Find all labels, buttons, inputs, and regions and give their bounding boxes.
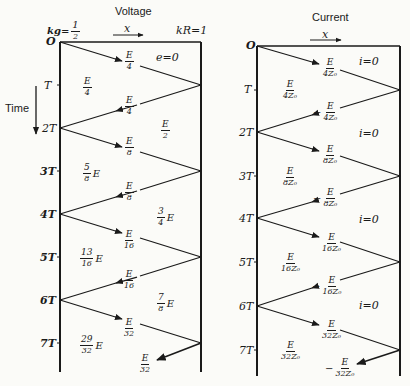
voltage-region-left-4: 2932E: [80, 335, 103, 355]
current-tick-0: O: [246, 40, 256, 51]
current-region-right-2: i=0: [359, 214, 379, 225]
voltage-wave-2: E4: [125, 96, 134, 116]
voltage-tick-4: 4T: [40, 209, 56, 220]
voltage-kr-label: kR=1: [176, 25, 207, 36]
voltage-tick-3: 3T: [40, 166, 56, 177]
voltage-tick-1: T: [44, 80, 51, 91]
current-region-left-2: E8Z₀: [283, 167, 297, 187]
current-region-left-4: E32Z₀: [281, 341, 300, 361]
voltage-region-right-3: 78E: [157, 293, 174, 313]
voltage-region-right-1: E2: [161, 120, 172, 140]
voltage-x-label: x: [124, 23, 130, 34]
current-wave-6: −E16Z₀: [312, 276, 341, 296]
current-wave-8: −E32Z₀: [325, 358, 354, 378]
current-tick-6: 6T: [239, 301, 253, 312]
current-wave-7: E32Z₀: [320, 320, 341, 340]
voltage-region-left-3: 1316E: [80, 248, 103, 268]
current-wave-3: E8Z₀: [321, 145, 337, 165]
voltage-tick-2: 2T: [42, 123, 56, 134]
voltage-tick-5: 5T: [40, 252, 56, 263]
voltage-wave-3: E8: [125, 137, 134, 157]
lattice-diagram-lines: [0, 0, 410, 386]
voltage-tick-0: O: [46, 36, 56, 47]
current-region-left-3: E16Z₀: [281, 253, 300, 273]
current-tick-2: 2T: [239, 127, 253, 138]
voltage-zero-zone: e=0: [156, 52, 179, 63]
voltage-wave-4: E8: [125, 182, 134, 202]
current-zero-zone: i=0: [359, 56, 379, 67]
current-tick-3: 3T: [239, 171, 253, 182]
current-tick-7: 7T: [239, 345, 253, 356]
voltage-tick-6: 6T: [40, 295, 56, 306]
voltage-wave-5: E16: [124, 230, 134, 250]
voltage-region-left-2: 58E: [83, 163, 100, 183]
time-axis-label: Time: [5, 103, 29, 114]
voltage-wave-6: E16: [124, 270, 134, 290]
current-region-right-1: i=0: [359, 128, 379, 139]
current-title: Current: [312, 12, 349, 23]
voltage-region-left-1: E4: [83, 77, 94, 97]
current-wave-5: E16Z₀: [320, 233, 341, 253]
current-region-right-3: i=0: [359, 300, 379, 311]
current-wave-1: E4Z₀: [321, 58, 337, 78]
voltage-wave-1: E4: [125, 51, 134, 71]
current-wave-4: −E8Z₀: [313, 188, 337, 208]
voltage-wave-8: E32: [140, 354, 150, 374]
current-tick-4: 4T: [239, 213, 253, 224]
voltage-tick-7: 7T: [40, 338, 56, 349]
current-tick-1: T: [244, 84, 251, 95]
current-wave-2: −E4Z₀: [313, 102, 337, 122]
voltage-title: Voltage: [115, 6, 152, 17]
voltage-region-right-2: 34E: [157, 207, 174, 227]
current-tick-5: 5T: [239, 257, 253, 268]
voltage-wave-7: E32: [124, 318, 134, 338]
current-x-label: x: [322, 29, 328, 40]
current-region-left-1: E4Z₀: [283, 80, 297, 100]
